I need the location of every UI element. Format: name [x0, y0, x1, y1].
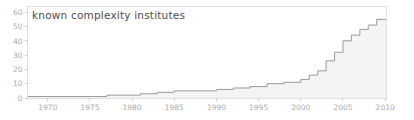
x-tick-label: 1980 — [123, 103, 142, 112]
x-tick-label: 2000 — [291, 103, 310, 112]
chart-title: known complexity institutes — [32, 9, 185, 21]
y-tick-label: 50 — [13, 22, 23, 31]
x-tick-label: 2005 — [333, 103, 352, 112]
x-tick-label: 1985 — [165, 103, 184, 112]
x-tick-label: 1970 — [38, 103, 57, 112]
x-tick-label: 2010 — [376, 103, 395, 112]
y-tick-label: 40 — [13, 37, 23, 46]
y-tick-label: 20 — [13, 65, 23, 74]
complexity-institutes-chart: 1970197519801985199019952000200520100102… — [0, 0, 414, 120]
y-tick-label: 0 — [18, 94, 23, 103]
y-tick-label: 30 — [13, 51, 23, 60]
x-tick-label: 1995 — [249, 103, 268, 112]
x-tick-label: 1975 — [80, 103, 99, 112]
x-tick-label: 1990 — [207, 103, 226, 112]
y-tick-label: 10 — [13, 79, 23, 88]
y-tick-label: 60 — [13, 8, 23, 17]
